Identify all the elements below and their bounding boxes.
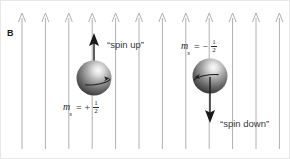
spin-down-ms-fraction: 1 2 xyxy=(211,39,217,55)
particle-glyph-layer xyxy=(1,1,290,159)
spin-down-ms-denominator: 2 xyxy=(211,46,217,54)
spin-up-quantum-number-label: ms = + 1 2 xyxy=(63,100,99,116)
particle-spin-down xyxy=(193,59,228,124)
spin-down-quantum-number-label: ms = − 1 2 xyxy=(181,39,217,55)
spin-down-ms-numerator: 1 xyxy=(211,39,217,46)
spin-diagram-figure: B “spin up” “spin down” ms = + 1 2 ms = … xyxy=(0,0,290,159)
spin-down-ms-sign: − xyxy=(203,41,209,52)
spin-up-ms-symbol: ms xyxy=(63,101,73,115)
panel-letter-label: B xyxy=(7,28,14,38)
spin-up-state-label: “spin up” xyxy=(107,39,144,50)
spin-up-ms-subscript: s xyxy=(69,110,72,118)
spin-down-state-label: “spin down” xyxy=(220,118,269,129)
spin-down-ms-symbol: ms xyxy=(181,40,191,54)
spin-up-ms-numerator: 1 xyxy=(93,100,99,107)
spin-down-ms-subscript: s xyxy=(187,49,190,57)
spin-up-ms-fraction: 1 2 xyxy=(93,100,99,116)
spin-up-ms-sign: + xyxy=(85,102,91,113)
spin-up-ms-equals: = xyxy=(76,102,82,113)
spin-up-ms-denominator: 2 xyxy=(93,107,99,115)
spin-down-ms-equals: = xyxy=(194,41,200,52)
